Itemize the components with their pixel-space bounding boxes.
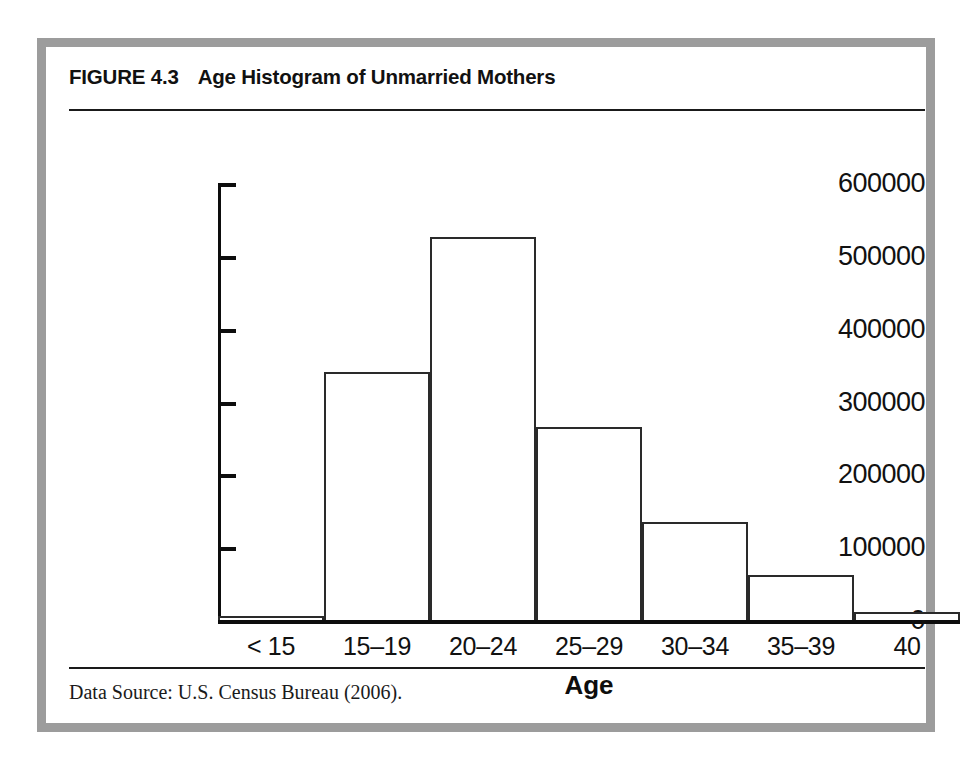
x-axis-tick-label: 25–29 xyxy=(536,632,642,661)
figure-inner: FIGURE 4.3Age Histogram of Unmarried Mot… xyxy=(46,47,944,741)
x-axis-tick-label: 15–19 xyxy=(324,632,430,661)
histogram-plot: 0100000200000300000400000500000600000 < … xyxy=(69,122,925,662)
figure-caption: Data Source: U.S. Census Bureau (2006). xyxy=(69,681,919,704)
histogram-bar xyxy=(218,616,324,620)
bars-layer xyxy=(218,183,960,620)
figure-title-text: Age Histogram of Unmarried Mothers xyxy=(198,65,556,88)
y-axis-tick xyxy=(221,620,236,624)
histogram-bar xyxy=(642,522,748,620)
figure-frame: FIGURE 4.3Age Histogram of Unmarried Mot… xyxy=(37,38,935,732)
x-axis-tick-label: 30–34 xyxy=(642,632,748,661)
histogram-bar xyxy=(854,612,960,620)
caption-divider xyxy=(69,667,925,669)
title-divider xyxy=(69,109,925,111)
x-axis-tick-label: 40 xyxy=(854,632,960,661)
figure-label: FIGURE 4.3 xyxy=(69,65,179,88)
histogram-bar xyxy=(430,237,536,620)
x-axis-tick-label: 20–24 xyxy=(430,632,536,661)
figure-title: FIGURE 4.3Age Histogram of Unmarried Mot… xyxy=(69,65,919,89)
x-axis-tick-label: 35–39 xyxy=(748,632,854,661)
x-axis-tick-label: < 15 xyxy=(218,632,324,661)
histogram-bar xyxy=(748,575,854,620)
figure-root: FIGURE 4.3Age Histogram of Unmarried Mot… xyxy=(0,0,978,771)
histogram-bar xyxy=(536,427,642,620)
histogram-bar xyxy=(324,372,430,620)
